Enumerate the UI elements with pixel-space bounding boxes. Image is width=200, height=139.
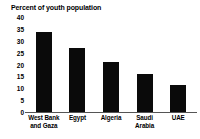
- y-axis-tick: 30: [17, 37, 24, 44]
- x-axis-line: [25, 112, 197, 113]
- x-axis-tick-line: Arabia: [122, 122, 168, 130]
- bar-chart: Percent of youth population 403530252015…: [0, 0, 200, 139]
- y-axis-tick: 5: [20, 97, 24, 104]
- bar[interactable]: [36, 32, 52, 112]
- bar[interactable]: [137, 74, 153, 112]
- x-axis-tick-line: and Gaza: [21, 122, 67, 130]
- bar-slot: [94, 17, 128, 112]
- bar-slot: [61, 17, 95, 112]
- bar-slot: [27, 17, 61, 112]
- y-axis-tick: 40: [17, 14, 24, 21]
- y-axis-tick: 10: [17, 85, 24, 92]
- bar-slot: [128, 17, 162, 112]
- x-axis-tick: UAE: [155, 114, 200, 122]
- y-axis-tick: 20: [17, 61, 24, 68]
- y-axis-tick: 35: [17, 25, 24, 32]
- bar-slot: [161, 17, 195, 112]
- bar[interactable]: [170, 85, 186, 112]
- x-axis-tick-labels: West Bankand GazaEgyptAlgeriaSaudiArabia…: [27, 114, 195, 139]
- y-axis-tick: 25: [17, 49, 24, 56]
- x-axis-tick-line: UAE: [155, 114, 200, 122]
- bar[interactable]: [69, 48, 85, 112]
- bar[interactable]: [103, 62, 119, 112]
- plot-area: [27, 17, 195, 112]
- y-axis-tick: 15: [17, 73, 24, 80]
